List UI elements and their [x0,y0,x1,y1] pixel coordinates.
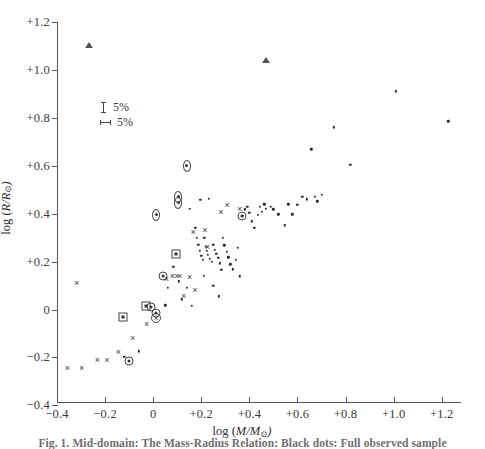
y-tick-label: 0 [44,302,50,317]
data-point-dot [248,211,250,213]
data-point-dot [138,350,140,352]
legend-label-vertical-error: 5% [113,100,129,115]
data-point-dot [196,236,198,238]
data-point-circled-dot [124,357,133,366]
data-point-cross: × [200,226,209,235]
data-point-dot [186,286,188,288]
data-point-dot [316,200,318,202]
data-point-dot [214,248,216,250]
data-point-dot [263,203,265,205]
y-axis-title-prefix: log ( [0,211,13,234]
data-point-cross: × [102,356,111,365]
data-point-diamond [152,209,160,221]
data-point-dot [310,148,312,150]
data-point-square-dot [119,312,128,321]
x-tick-mark [105,397,106,403]
x-axis-title-variable: M/M [236,424,260,438]
x-tick-label: −0.2 [93,407,116,422]
data-point-diamond [183,160,191,172]
data-point-dot [220,269,222,271]
data-point-dot [217,295,219,297]
y-tick-label: +1.2 [27,15,50,30]
y-axis-line [57,22,58,403]
x-tick-label: +0.2 [190,407,213,422]
y-tick-label: +0.4 [27,206,50,221]
data-point-dot [199,250,201,252]
data-point-cross: × [114,347,123,356]
data-point-cross: × [152,314,161,323]
data-point-dot [237,247,239,249]
x-tick-label: +1.2 [430,407,453,422]
data-point-dot [225,251,227,253]
y-axis-title-sun-symbol: ⊙ [3,186,13,193]
y-tick-label: −0.2 [27,350,50,365]
data-point-dot [261,211,263,213]
y-tick-label: +0.2 [27,254,50,269]
plot-area: +1.2+1.0+0.8+0.6+0.4+0.20−0.2−0.4 −0.4−0… [57,22,461,403]
data-point-dot [203,236,205,238]
figure-root: +1.2+1.0+0.8+0.6+0.4+0.20−0.2−0.4 −0.4−0… [0,0,485,449]
x-tick-mark [153,397,154,403]
x-axis-title-suffix: ) [267,424,271,438]
data-point-dot [212,284,214,286]
y-axis-title-suffix: ) [0,181,13,185]
data-point-dot [253,227,255,229]
data-point-dot [208,198,210,200]
data-point-diamond [174,191,182,203]
x-tick-label: −0.4 [45,407,68,422]
figure-caption: Fig. 1. Mid-domain: The Mass-Radius Rela… [0,437,485,449]
y-axis-title-variable: R/R [0,193,13,212]
y-tick-mark [52,357,58,358]
data-point-dot [447,120,449,122]
y-tick-label: +1.0 [27,62,50,77]
data-point-dot [172,266,174,268]
data-point-dot [227,256,229,258]
data-point-dot [207,254,209,256]
data-point-dot [189,208,191,210]
data-point-dot [202,259,204,261]
data-point-cross: × [63,363,72,372]
data-point-dot [239,275,241,277]
y-tick-mark [52,262,58,263]
data-point-dot [222,236,224,238]
data-point-dot [164,304,166,306]
y-tick-mark [52,22,58,23]
data-point-dot [223,244,225,246]
horizontal-errorbar-icon [100,119,111,126]
data-point-dot [197,244,199,246]
data-point-dot [291,213,293,215]
data-point-cross: × [128,334,137,343]
y-tick-mark [52,214,58,215]
x-tick-label: +1.0 [382,407,405,422]
data-point-cross: × [77,363,86,372]
y-tick-mark [52,310,58,311]
data-point-dot [212,244,214,246]
data-point-dot [190,305,192,307]
data-point-dot [265,208,267,210]
data-point-dot [166,287,168,289]
data-point-cross: × [175,272,184,281]
data-point-cross: × [223,201,232,210]
data-point-cross: × [189,227,198,236]
data-point-dot [246,205,248,207]
data-point-dot [229,263,231,265]
x-tick-mark [249,397,250,403]
x-tick-mark [201,397,202,403]
data-point-dot [210,261,212,263]
data-point-dot [320,193,322,195]
data-point-cross: × [142,320,151,329]
data-point-dot [269,205,271,207]
data-point-dot [231,268,233,270]
data-point-dot [287,203,289,205]
data-point-dot [296,204,298,206]
data-point-cross: × [72,279,81,288]
x-tick-mark [442,397,443,403]
data-point-dot [284,224,286,226]
data-point-dot [277,213,279,215]
y-tick-label: +0.8 [27,110,50,125]
data-point-dot [272,208,274,210]
y-tick-mark [52,70,58,71]
y-tick-label: +0.6 [27,158,50,173]
data-point-dot [306,198,308,200]
data-point-dot [395,90,397,92]
